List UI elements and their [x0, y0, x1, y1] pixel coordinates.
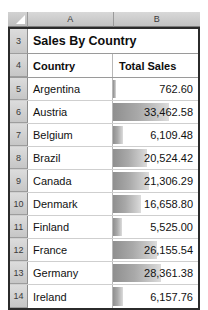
- cell-b8-total-sales[interactable]: 20,524.42: [113, 147, 198, 169]
- cell-a9-country[interactable]: Canada: [28, 170, 113, 192]
- row-header-8[interactable]: 8: [10, 147, 28, 169]
- cell-value: 6,157.76: [150, 291, 193, 303]
- title-row: 3 Sales By Country: [10, 29, 198, 54]
- cell-a3-title[interactable]: Sales By Country: [28, 29, 198, 54]
- table-row: 13Germany28,361.38: [10, 262, 198, 285]
- data-bar: [113, 218, 122, 236]
- cell-value: 16,658.80: [144, 198, 193, 210]
- cell-a8-country[interactable]: Brazil: [28, 147, 113, 169]
- cell-b7-total-sales[interactable]: 6,109.48: [113, 124, 198, 146]
- data-bar: [113, 126, 123, 144]
- cell-b13-total-sales[interactable]: 28,361.38: [113, 262, 198, 284]
- cell-value: 21,306.29: [144, 175, 193, 187]
- cell-a10-country[interactable]: Denmark: [28, 193, 113, 215]
- data-rows-container: 5Argentina762.606Austria33,462.587Belgiu…: [10, 78, 198, 308]
- column-label-row: 4 Country Total Sales: [10, 54, 198, 78]
- spreadsheet-grid: A B 3 Sales By Country 4 Country Total S…: [8, 12, 200, 283]
- cell-a4-country-header[interactable]: Country: [28, 54, 113, 77]
- cell-a5-country[interactable]: Argentina: [28, 78, 113, 100]
- table-row: 12France26,155.54: [10, 239, 198, 262]
- table-row: 9Canada21,306.29: [10, 170, 198, 193]
- table-row: 6Austria33,462.58: [10, 101, 198, 124]
- row-header-13[interactable]: 13: [10, 262, 28, 284]
- cell-value: 20,524.42: [144, 152, 193, 164]
- cell-b14-total-sales[interactable]: 6,157.76: [113, 285, 198, 308]
- column-header-b[interactable]: B: [114, 12, 200, 27]
- data-bar: [113, 195, 141, 213]
- row-header-9[interactable]: 9: [10, 170, 28, 192]
- cell-a6-country[interactable]: Austria: [28, 101, 113, 123]
- table-row: 7Belgium6,109.48: [10, 124, 198, 147]
- table-row: 14Ireland6,157.76: [10, 285, 198, 308]
- table-row: 5Argentina762.60: [10, 78, 198, 101]
- cell-b12-total-sales[interactable]: 26,155.54: [113, 239, 198, 261]
- row-header-5[interactable]: 5: [10, 78, 28, 100]
- row-header-4[interactable]: 4: [10, 54, 28, 77]
- cell-b6-total-sales[interactable]: 33,462.58: [113, 101, 198, 123]
- cell-value: 33,462.58: [144, 106, 193, 118]
- select-all-corner-cell[interactable]: [8, 12, 28, 27]
- row-header-14[interactable]: 14: [10, 285, 28, 308]
- row-header-11[interactable]: 11: [10, 216, 28, 238]
- cell-value: 28,361.38: [144, 267, 193, 279]
- cell-b4-total-sales-header[interactable]: Total Sales: [113, 54, 198, 77]
- row-header-10[interactable]: 10: [10, 193, 28, 215]
- row-header-6[interactable]: 6: [10, 101, 28, 123]
- cell-b9-total-sales[interactable]: 21,306.29: [113, 170, 198, 192]
- cell-a12-country[interactable]: France: [28, 239, 113, 261]
- row-header-7[interactable]: 7: [10, 124, 28, 146]
- cell-value: 26,155.54: [144, 244, 193, 256]
- select-all-triangle-icon: [16, 15, 25, 24]
- cell-value: 762.60: [159, 83, 193, 95]
- row-header-12[interactable]: 12: [10, 239, 28, 261]
- table-row: 11Finland5,525.00: [10, 216, 198, 239]
- cell-value: 6,109.48: [150, 129, 193, 141]
- data-bar: [113, 80, 116, 98]
- table-row: 10Denmark16,658.80: [10, 193, 198, 216]
- table-row: 8Brazil20,524.42: [10, 147, 198, 170]
- cell-value: 5,525.00: [150, 221, 193, 233]
- cell-b5-total-sales[interactable]: 762.60: [113, 78, 198, 100]
- grid-body: 3 Sales By Country 4 Country Total Sales…: [8, 27, 200, 310]
- cell-a13-country[interactable]: Germany: [28, 262, 113, 284]
- cell-b11-total-sales[interactable]: 5,525.00: [113, 216, 198, 238]
- cell-a14-country[interactable]: Ireland: [28, 285, 113, 308]
- cell-a7-country[interactable]: Belgium: [28, 124, 113, 146]
- cell-a11-country[interactable]: Finland: [28, 216, 113, 238]
- data-bar: [113, 149, 147, 167]
- cell-b10-total-sales[interactable]: 16,658.80: [113, 193, 198, 215]
- data-bar: [113, 287, 123, 306]
- column-header-strip: A B: [8, 12, 200, 27]
- column-header-a[interactable]: A: [28, 12, 114, 27]
- row-header-3[interactable]: 3: [10, 29, 28, 54]
